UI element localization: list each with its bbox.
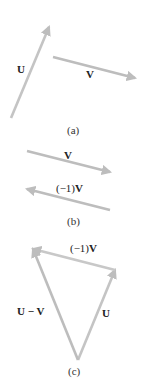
label-u-c: U	[102, 308, 110, 319]
label-v-b: V	[64, 150, 72, 161]
caption-b: (b)	[67, 216, 80, 227]
caption-c: (c)	[68, 366, 80, 377]
label-u-minus-v-c: U − V	[17, 306, 44, 317]
label-neg-v-b: (−1)V	[56, 183, 83, 194]
label-neg-v-b-prefix: (−1)	[56, 182, 75, 194]
label-u-a: U	[17, 64, 25, 75]
label-v-a: V	[86, 69, 94, 80]
vector-v-arrow-a	[53, 57, 135, 78]
caption-a: (a)	[67, 125, 79, 136]
label-neg-v-b-var: V	[75, 182, 83, 194]
label-neg-v-c-var: V	[89, 242, 97, 254]
label-neg-v-c-prefix: (−1)	[70, 242, 89, 254]
label-neg-v-c: (−1)V	[70, 243, 97, 254]
